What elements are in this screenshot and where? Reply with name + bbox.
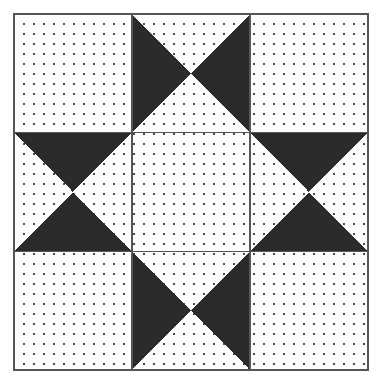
cell-bottom-right-stipple-fill bbox=[250, 251, 368, 370]
cell-top-right bbox=[250, 14, 368, 133]
cell-center-stipple-fill bbox=[132, 133, 250, 252]
cell-bottom-left bbox=[14, 251, 132, 370]
cell-top-left-stipple-fill bbox=[14, 14, 132, 133]
cell-top-left bbox=[14, 14, 132, 133]
cell-middle-right bbox=[250, 133, 368, 252]
cell-bottom-right bbox=[250, 251, 368, 370]
quilt-block-canvas bbox=[0, 0, 380, 386]
cell-middle-left bbox=[14, 133, 132, 252]
quilt-block-figure bbox=[0, 0, 380, 386]
cell-top-right-stipple-fill bbox=[250, 14, 368, 133]
cell-bottom-center bbox=[132, 251, 250, 370]
cell-top-center bbox=[132, 14, 250, 133]
cell-center bbox=[132, 133, 250, 252]
cell-bottom-left-stipple-fill bbox=[14, 251, 132, 370]
